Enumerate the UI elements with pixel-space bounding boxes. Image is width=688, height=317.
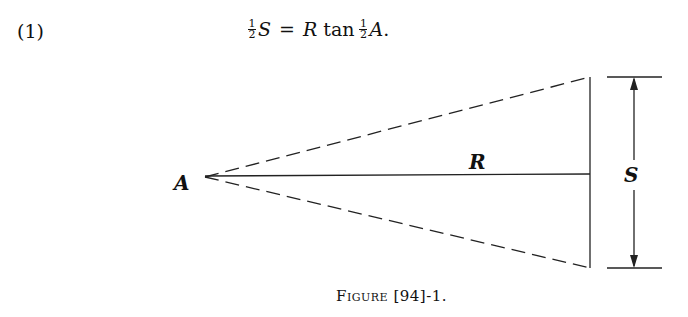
arrow-up-icon [630,77,638,90]
radius-line [205,174,590,176]
label-s: S [624,163,638,187]
figure-caption: Figure [94]-1. [336,287,447,305]
label-r: R [469,150,486,174]
triangle-diagram [0,0,688,317]
label-a: A [174,171,190,195]
arrow-down-icon [630,255,638,268]
upper-dashed-edge [205,77,590,177]
lower-dashed-edge [205,177,590,268]
